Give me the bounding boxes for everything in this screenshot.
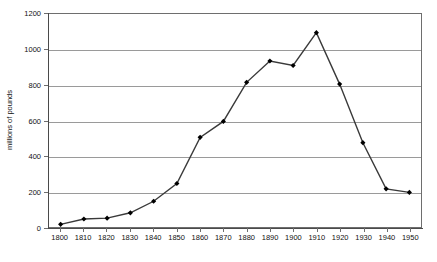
y-tick-mark [44,156,48,157]
x-tick-label: 1850 [168,233,185,242]
y-tick-mark [44,192,48,193]
x-tick-label: 1890 [262,233,279,242]
x-tick-mark [247,228,248,232]
x-tick-mark [387,228,388,232]
x-tick-label: 1950 [402,233,419,242]
x-tick-mark [177,228,178,232]
chart-figure: 020040060080010001200 180018101820183018… [0,0,437,262]
x-tick-mark [340,228,341,232]
x-tick-label: 1900 [285,233,302,242]
x-tick-label: 1860 [192,233,209,242]
x-tick-mark [317,228,318,232]
y-tick-mark [44,49,48,50]
x-tick-mark [223,228,224,232]
x-tick-mark [153,228,154,232]
x-tick-label: 1870 [215,233,232,242]
x-tick-label: 1810 [75,233,92,242]
x-tick-mark [83,228,84,232]
x-tick-label: 1920 [332,233,349,242]
x-tick-mark [364,228,365,232]
x-tick-label: 1910 [308,233,325,242]
y-tick-mark [44,13,48,14]
x-tick-label: 1930 [355,233,372,242]
y-tick-mark [44,85,48,86]
x-tick-label: 1820 [98,233,115,242]
x-axis-tick-labels: 1800181018201830184018501860187018801890… [0,0,437,262]
x-tick-label: 1830 [121,233,138,242]
x-tick-mark [60,228,61,232]
y-axis-title: millions of pounds [5,90,14,150]
x-tick-mark [106,228,107,232]
x-tick-label: 1840 [145,233,162,242]
x-tick-label: 1940 [379,233,396,242]
x-tick-mark [270,228,271,232]
x-tick-mark [410,228,411,232]
x-tick-mark [200,228,201,232]
y-tick-mark [44,228,48,229]
x-tick-label: 1880 [238,233,255,242]
y-tick-mark [44,121,48,122]
x-tick-mark [293,228,294,232]
x-tick-label: 1800 [51,233,68,242]
x-tick-mark [130,228,131,232]
